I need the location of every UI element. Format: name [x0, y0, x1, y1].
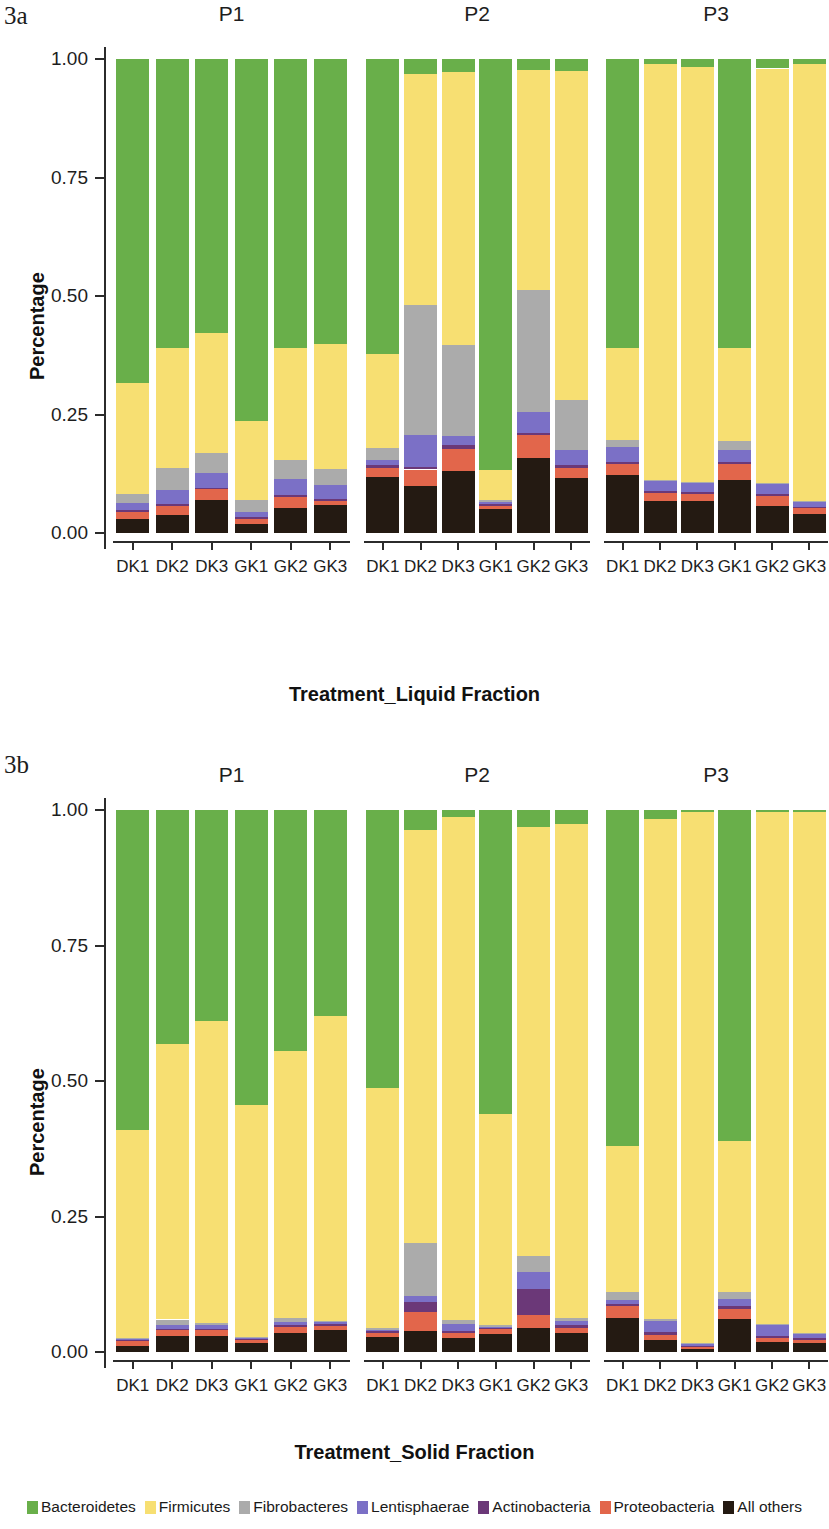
stacked-bar[interactable]	[681, 810, 714, 1352]
bar-segment	[606, 464, 639, 475]
bar-segment	[442, 59, 475, 72]
bar-segment	[442, 817, 475, 1321]
stacked-bar[interactable]	[274, 810, 307, 1352]
stacked-bar[interactable]	[195, 59, 228, 533]
bar-segment	[314, 1330, 347, 1352]
bar-segment	[314, 469, 347, 485]
stacked-bar[interactable]	[479, 59, 512, 533]
legend-swatch-icon	[145, 1501, 156, 1514]
legend: BacteroidetesFirmicutesFibrobacteresLent…	[0, 1495, 829, 1519]
stacked-bar[interactable]	[156, 59, 189, 533]
stacked-bar[interactable]	[644, 810, 677, 1352]
bar-segment	[644, 59, 677, 64]
stacked-bar[interactable]	[606, 59, 639, 533]
bar-segment	[681, 494, 714, 501]
bar-segment	[156, 1329, 189, 1331]
bar-segment	[644, 1332, 677, 1335]
stacked-bar[interactable]	[756, 59, 789, 533]
bar-segment	[793, 812, 826, 1333]
bar-segment	[756, 1325, 789, 1336]
stacked-bar[interactable]	[116, 810, 149, 1352]
bar-segment	[555, 465, 588, 467]
stacked-bar[interactable]	[366, 59, 399, 533]
x-tick-mark	[250, 541, 252, 550]
stacked-bar[interactable]	[718, 59, 751, 533]
bar-segment	[479, 509, 512, 533]
stacked-bar[interactable]	[681, 59, 714, 533]
bar-segment	[314, 1321, 347, 1323]
stacked-bar[interactable]	[793, 59, 826, 533]
bar-segment	[274, 497, 307, 508]
legend-item[interactable]: Actinobacteria	[478, 1498, 590, 1516]
stacked-bar[interactable]	[235, 810, 268, 1352]
y-tick-label: 0.00	[18, 1341, 88, 1363]
legend-item[interactable]: Fibrobacteres	[239, 1498, 348, 1516]
stacked-bar[interactable]	[366, 810, 399, 1352]
x-tick-mark	[382, 541, 384, 550]
stacked-bar[interactable]	[517, 59, 550, 533]
bar-segment	[644, 1319, 677, 1321]
stacked-bar[interactable]	[555, 810, 588, 1352]
stacked-bar[interactable]	[314, 59, 347, 533]
stacked-bar[interactable]	[517, 810, 550, 1352]
stacked-bar[interactable]	[116, 59, 149, 533]
y-tick-mark	[95, 295, 104, 297]
stacked-bar[interactable]	[756, 810, 789, 1352]
legend-item[interactable]: All others	[723, 1498, 802, 1516]
stacked-bar[interactable]	[718, 810, 751, 1352]
stacked-bar[interactable]	[555, 59, 588, 533]
legend-item[interactable]: Bacteroidetes	[27, 1498, 136, 1516]
stacked-bar[interactable]	[404, 59, 437, 533]
legend-label: Firmicutes	[159, 1498, 230, 1516]
stacked-bar[interactable]	[314, 810, 347, 1352]
bar-segment	[442, 471, 475, 533]
bar-segment	[442, 1320, 475, 1324]
bar-segment	[404, 470, 437, 486]
stacked-bar[interactable]	[606, 810, 639, 1352]
x-tick-mark	[382, 1360, 384, 1369]
y-tick-mark	[95, 1351, 104, 1353]
bar-segment	[274, 508, 307, 533]
bar-segment	[479, 470, 512, 499]
legend-item[interactable]: Lentisphaerae	[357, 1498, 469, 1516]
stacked-bar[interactable]	[156, 810, 189, 1352]
facet-strip-p1: P1	[113, 763, 350, 787]
legend-swatch-icon	[478, 1501, 489, 1514]
legend-swatch-icon	[723, 1501, 734, 1514]
bar-segment	[314, 344, 347, 469]
bar-segment	[793, 1340, 826, 1343]
bar-segment	[718, 1309, 751, 1320]
figure-3a: 3a Percentage Treatment_Liquid Fraction …	[0, 0, 829, 715]
stacked-bar[interactable]	[235, 59, 268, 533]
stacked-bar[interactable]	[195, 810, 228, 1352]
bar-segment	[681, 483, 714, 492]
bar-segment	[793, 1333, 826, 1334]
stacked-bar[interactable]	[442, 810, 475, 1352]
stacked-bar[interactable]	[479, 810, 512, 1352]
bar-segment	[606, 1306, 639, 1318]
bar-segment	[274, 479, 307, 495]
stacked-bar[interactable]	[644, 59, 677, 533]
y-tick-label: 0.50	[18, 285, 88, 307]
y-tick-label: 0.00	[18, 522, 88, 544]
bar-segment	[606, 462, 639, 464]
bar-segment	[681, 1343, 714, 1344]
stacked-bar[interactable]	[404, 810, 437, 1352]
bar-segment	[517, 1272, 550, 1289]
bar-segment	[555, 59, 588, 71]
x-tick-mark	[250, 1360, 252, 1369]
legend-item[interactable]: Firmicutes	[145, 1498, 230, 1516]
x-tick-mark	[420, 1360, 422, 1369]
stacked-bar[interactable]	[274, 59, 307, 533]
bar-segment	[555, 478, 588, 533]
legend-item[interactable]: Proteobacteria	[600, 1498, 715, 1516]
x-tick-mark	[696, 1360, 698, 1369]
bar-segment	[314, 1322, 347, 1324]
stacked-bar[interactable]	[442, 59, 475, 533]
bar-segment	[517, 1315, 550, 1328]
bar-segment	[195, 473, 228, 487]
bar-segment	[681, 67, 714, 482]
stacked-bar[interactable]	[793, 810, 826, 1352]
bar-segment	[404, 467, 437, 470]
x-tick-mark	[771, 541, 773, 550]
